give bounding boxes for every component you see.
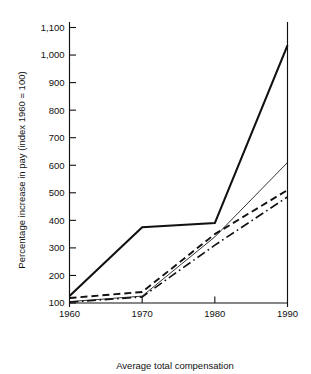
series-line-series-3 (70, 190, 288, 298)
x-axis-ticks (142, 297, 215, 304)
y-tick-label: 800 (49, 105, 65, 116)
line-chart: 1002003004005006007008009001,0001,100 19… (0, 0, 311, 374)
series-line-series-4 (70, 197, 288, 302)
y-tick-label: 100 (49, 297, 65, 308)
y-tick-label: 300 (49, 242, 65, 253)
y-axis-group: 1002003004005006007008009001,0001,100 (41, 22, 76, 309)
y-tick-label: 1,100 (41, 22, 65, 33)
x-axis-tick-labels: 1960197019801990 (59, 308, 298, 319)
y-tick-label: 400 (49, 215, 65, 226)
y-tick-label: 700 (49, 132, 65, 143)
y-tick-label: 1,000 (41, 49, 65, 60)
series-line-series-1 (70, 45, 288, 296)
y-tick-label: 600 (49, 160, 65, 171)
x-tick-label: 1980 (204, 308, 225, 319)
y-axis-ticks (70, 28, 77, 304)
y-axis-tick-labels: 1002003004005006007008009001,0001,100 (41, 22, 65, 309)
x-axis-title: Average total compensation (116, 360, 234, 371)
x-tick-label: 1970 (132, 308, 153, 319)
x-tick-label: 1960 (59, 308, 80, 319)
chart-container: 1002003004005006007008009001,0001,100 19… (0, 0, 311, 374)
y-axis-title: Percentage increase in pay (index 1960 =… (16, 71, 27, 268)
y-tick-label: 200 (49, 270, 65, 281)
x-axis-group: 1960197019801990 (59, 22, 298, 319)
y-tick-label: 500 (49, 187, 65, 198)
x-tick-label: 1990 (277, 308, 298, 319)
series-line-series-2 (70, 163, 288, 302)
y-tick-label: 900 (49, 77, 65, 88)
series-lines-group (70, 45, 288, 302)
